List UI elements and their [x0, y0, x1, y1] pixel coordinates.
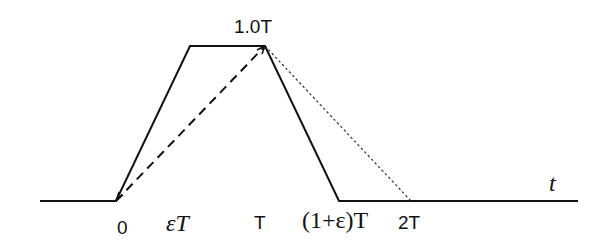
tick-label-one-plus-eps-t-text: (1+ε)T [302, 207, 368, 233]
tick-label-eps-t: εT [166, 210, 189, 237]
dotted-triangle-fall [265, 46, 411, 201]
axis-label-t: t [549, 170, 556, 197]
tick-label-zero: 0 [117, 217, 128, 239]
dashed-triangle-rise [116, 46, 265, 201]
peak-label: 1.0T [234, 16, 272, 38]
solid-trapezoid-pulse [40, 46, 578, 201]
tick-label-2t: 2T [398, 212, 420, 234]
tick-label-one-plus-eps-t: (1+ε)T [302, 207, 368, 234]
peak-arrowhead [257, 46, 265, 54]
tick-label-t: T [254, 212, 266, 234]
